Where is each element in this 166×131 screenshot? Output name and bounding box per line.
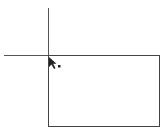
arrow-pointer-with-dot-icon	[48, 56, 64, 72]
drawing-canvas[interactable]	[0, 0, 166, 131]
horizontal-guide-line	[4, 55, 48, 56]
vertical-guide-line	[48, 8, 49, 55]
drawn-rectangle[interactable]	[48, 55, 160, 127]
